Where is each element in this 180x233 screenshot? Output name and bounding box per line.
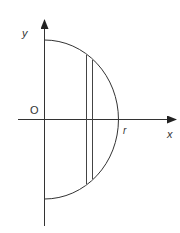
x-axis-label: x	[166, 128, 173, 140]
radius-label: r	[123, 125, 127, 136]
origin-label: O	[30, 104, 39, 116]
semicircle-diagram: y x O r	[0, 0, 180, 233]
y-axis-label: y	[21, 27, 29, 39]
